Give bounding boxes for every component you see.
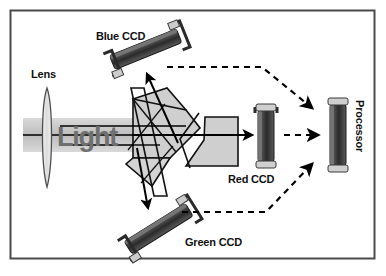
red-ccd-label: Red CCD	[228, 173, 275, 185]
processor-unit	[328, 98, 348, 172]
processor-label: Processor	[354, 100, 366, 153]
lens-element	[43, 88, 52, 187]
red-ccd-sensor	[255, 104, 277, 168]
optical-path-diagram: Lens Blue CCD Green CCD Red CCD Processo…	[0, 0, 386, 276]
lens-label: Lens	[31, 68, 56, 80]
blue-ccd-label: Blue CCD	[96, 30, 145, 42]
green-ccd-label: Green CCD	[185, 236, 242, 248]
diagram-figure: Lens Blue CCD Green CCD Red CCD Processo…	[0, 0, 386, 276]
light-beam-label: Light	[57, 122, 118, 152]
